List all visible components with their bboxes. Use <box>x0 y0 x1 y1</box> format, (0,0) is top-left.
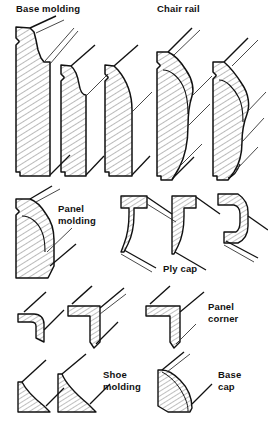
label-panel-molding-line2: molding <box>58 215 96 226</box>
label-base-cap-line2: cap <box>218 381 235 392</box>
heading-chair-rail: Chair rail <box>157 3 200 14</box>
heading-base-molding: Base molding <box>16 3 80 14</box>
label-ply-cap: Ply cap <box>163 263 197 274</box>
label-shoe-molding-line1: Shoe <box>103 369 127 380</box>
label-panel-corner-line1: Panel <box>208 301 234 312</box>
molding-profiles-figure: Base molding Chair rail <box>0 0 268 430</box>
label-panel-corner-line2: corner <box>208 313 239 324</box>
label-base-cap-line1: Base <box>218 369 241 380</box>
label-panel-molding-line1: Panel <box>58 203 84 214</box>
molding-profiles-drawing: Base molding Chair rail <box>0 0 268 430</box>
label-shoe-molding-line2: molding <box>103 381 141 392</box>
